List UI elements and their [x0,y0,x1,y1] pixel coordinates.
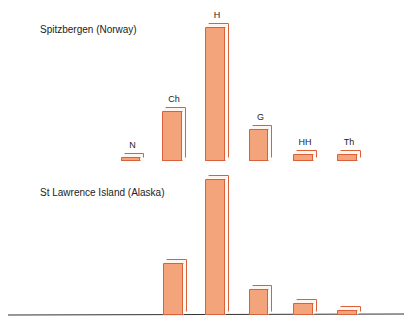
bar-top-face [205,175,229,180]
bar-top-face [337,306,361,311]
bar-side-face [183,259,187,315]
bar-hh [293,299,317,315]
bar-g [249,285,272,315]
chart-title: St Lawrence Island (Alaska) [40,187,165,198]
bar-top-face [293,299,317,304]
bar-top-face [249,285,272,290]
bar-ch [163,259,187,315]
bar-front-face [293,303,313,315]
bar-front-face [163,263,183,315]
bar-top-face [163,259,187,264]
bar-h [205,175,229,315]
chart-st-lawrence: St Lawrence Island (Alaska) [0,0,414,325]
bar-side-face [225,175,229,315]
bar-th [337,306,361,315]
bar-front-face [249,289,268,315]
bar-side-face [268,285,272,315]
bar-front-face [205,179,225,315]
